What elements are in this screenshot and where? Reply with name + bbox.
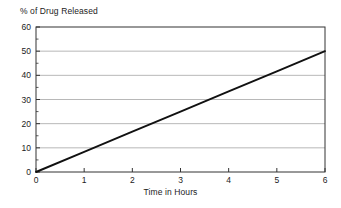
y-axis-tick-labels: 0102030405060 [22, 22, 32, 177]
x-axis-tick-label: 4 [226, 175, 231, 185]
x-axis-ticks [36, 168, 325, 172]
y-axis-tick-label: 30 [22, 95, 32, 105]
y-axis-tick-label: 40 [22, 70, 32, 80]
x-axis-tick-labels: 0123456 [34, 175, 328, 185]
y-axis-tick-label: 50 [22, 46, 32, 56]
drug-release-chart: % of Drug Released 0102030405060 0123456… [0, 0, 341, 208]
y-axis-tick-label: 0 [26, 167, 31, 177]
x-axis-tick-label: 3 [178, 175, 183, 185]
y-axis-tick-label: 60 [22, 22, 32, 32]
plot-area: 0102030405060 0123456 [0, 0, 341, 208]
y-axis-tick-label: 10 [22, 143, 32, 153]
gridlines [36, 51, 325, 148]
x-axis-tick-label: 6 [323, 175, 328, 185]
data-series-line [36, 51, 325, 172]
x-axis-tick-label: 0 [34, 175, 39, 185]
x-axis-tick-label: 5 [274, 175, 279, 185]
y-axis-ticks [36, 27, 40, 172]
x-axis-tick-label: 1 [82, 175, 87, 185]
x-axis-tick-label: 2 [130, 175, 135, 185]
y-axis-tick-label: 20 [22, 119, 32, 129]
x-axis-title: Time in Hours [0, 187, 341, 197]
